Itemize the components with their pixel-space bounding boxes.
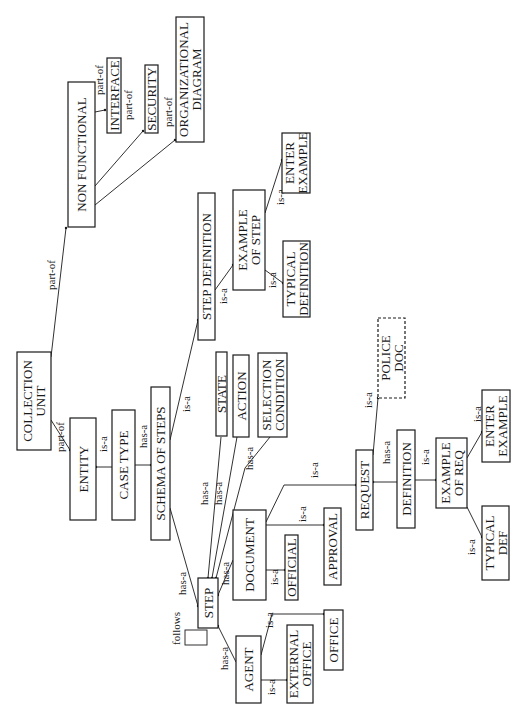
node-non-functional: NON FUNCTIONAL (68, 82, 95, 227)
node-interface: INTERFACE (107, 58, 122, 133)
node-example-of-step: EXAMPLEOF STEP (233, 190, 265, 290)
edge-label: part-of (54, 422, 66, 452)
node-label: APPROVAL (325, 513, 340, 580)
edge-is-a: is-a (265, 270, 284, 288)
node-label: EXAMPLE (495, 395, 510, 456)
node-request: REQUEST (356, 450, 373, 530)
edge-label: part-of (45, 260, 57, 290)
edge-label: has-a (243, 447, 255, 470)
edge-is-a: is-a (467, 406, 483, 458)
edge-is-a: is-a (266, 506, 325, 526)
edge-label: is-a (97, 436, 109, 452)
edge-label: is-a (265, 679, 277, 695)
node-approval: APPROVAL (324, 508, 341, 585)
edge-line (95, 110, 105, 112)
edge-is-a: is-a (261, 679, 288, 695)
node-selection-condition: SELECTIONCONDITION (258, 353, 287, 437)
edge-label: is-a (266, 272, 278, 288)
edge-label: part-of (162, 97, 174, 127)
edge-has-a: has-a (217, 560, 233, 596)
node-label: DEF (495, 531, 510, 556)
edge-part-of: part-of (45, 227, 67, 357)
edge-is-a: is-a (95, 436, 112, 468)
node-enter-example-req: ENTEREXAMPLE (482, 390, 510, 462)
node-label: SECURITY (144, 67, 159, 131)
node-security: SECURITY (144, 65, 159, 133)
node-label: DEFINITION (399, 442, 414, 516)
node-label: ACTION (234, 371, 249, 421)
edge-label: has-a (218, 647, 230, 670)
edge-line (51, 228, 66, 357)
node-label: DOCUMENT (242, 518, 257, 592)
node-police-doc: POLICEDOC (378, 318, 406, 398)
edge-line (95, 131, 143, 186)
edge-line (208, 437, 221, 578)
follows-label: follows (170, 612, 182, 645)
node-label: STATE (214, 375, 229, 413)
node-label: CASE TYPE (116, 431, 131, 500)
edge-label: is-a (268, 569, 280, 585)
node-label: ENTITY (76, 445, 91, 493)
nodes-layer: NON FUNCTIONALINTERFACESECURITYORGANIZAT… (17, 17, 510, 703)
node-label: DIAGRAM (189, 48, 204, 111)
node-example-of-req: EXAMPLEOF REQ (436, 438, 467, 508)
node-organizational-diagram: ORGANIZATIONALDIAGRAM (176, 17, 204, 142)
edge-label: is-a (296, 506, 308, 522)
node-label: OFFICE (326, 618, 341, 663)
node-typical-def: TYPICALDEF (482, 506, 510, 580)
node-collection-unit: COLLECTIONUNIT (17, 352, 51, 450)
edge-label: has-a (380, 441, 392, 464)
edge-has-a: has-a (217, 625, 236, 670)
node-label: STEP (201, 588, 216, 618)
edge-label: is-a (362, 392, 374, 408)
node-label: DEFINITION (296, 242, 311, 316)
edge-label: has-a (198, 482, 210, 505)
edge-is-a: is-a (266, 462, 357, 522)
node-schema-of-steps: SCHEMA OF STEPS (151, 387, 170, 540)
edge-label: part-of (122, 90, 134, 120)
node-label: UNIT (33, 385, 48, 416)
node-external-office: EXTERNALOFFICE (286, 625, 314, 703)
node-typical-definition: TYPICALDEFINITION (283, 241, 311, 317)
node-label: OFFICIAL (284, 538, 299, 597)
edge-line (170, 320, 198, 440)
node-label: REQUEST (357, 461, 372, 520)
edge-has-a: has-a (170, 508, 199, 607)
edge-is-a: is-a (415, 449, 437, 481)
edge-line (467, 507, 482, 537)
node-document: DOCUMENT (233, 510, 266, 600)
self-loop-box (185, 630, 207, 645)
edge-part-of: part-of (51, 420, 71, 452)
edge-line (215, 265, 233, 290)
edge-label: has-a (212, 482, 224, 505)
node-step: STEP (198, 578, 218, 628)
edge-is-a: is-a (215, 264, 234, 304)
edge-label: has-a (137, 425, 149, 448)
node-label: NON FUNCTIONAL (74, 97, 89, 212)
edge-label: has-a (176, 572, 188, 595)
node-enter-example-step: ENTEREXAMPLE (282, 132, 310, 193)
node-label: SCHEMA OF STEPS (153, 406, 168, 520)
node-label: STEP DEFINITION (199, 213, 214, 320)
edge-is-a: is-a (170, 319, 199, 440)
edge-label: has-a (219, 562, 231, 585)
edge-is-a: is-a (465, 507, 483, 555)
edge-label: is-a (308, 462, 320, 478)
semantic-network-diagram: part-ofpart-ofpart-ofpart-ofpart-ofis-ah… (0, 0, 531, 713)
edge-label: is-a (263, 612, 275, 628)
node-state: STATE (214, 352, 229, 436)
node-entity: ENTITY (70, 418, 96, 520)
node-label: AGENT (241, 647, 256, 691)
node-label: CONDITION (272, 358, 287, 431)
node-label: OFFICE (299, 642, 314, 687)
node-label: EXAMPLE (295, 132, 310, 193)
node-case-type: CASE TYPE (112, 410, 135, 520)
node-official: OFFICIAL (284, 535, 299, 600)
node-action: ACTION (233, 355, 249, 437)
edge-has-a: has-a (372, 441, 397, 484)
node-step-definition: STEP DEFINITION (198, 193, 215, 340)
arrowhead-icon (65, 227, 67, 229)
edge-is-a: is-a (362, 392, 379, 455)
node-label: OF STEP (248, 215, 263, 265)
node-definition: DEFINITION (397, 430, 415, 528)
